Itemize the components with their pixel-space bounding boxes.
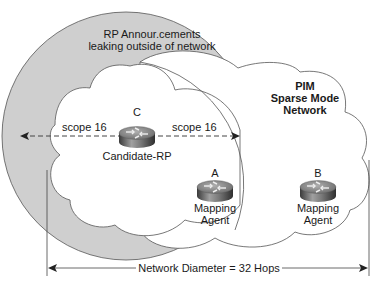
router-a-label: Mapping Agent <box>190 202 240 226</box>
router-a-icon <box>197 181 233 203</box>
router-b-label: Mapping Agent <box>293 202 343 226</box>
router-c-icon <box>119 127 155 149</box>
scope-right-label: scope 16 <box>172 121 217 133</box>
router-b-icon <box>300 181 336 203</box>
diameter-label: Network Diameter = 32 Hops <box>137 262 281 274</box>
router-c-letter: C <box>131 106 143 118</box>
leak-annotation: RP Annour.cements leaking outside of net… <box>77 28 227 52</box>
router-b-letter: B <box>312 167 324 179</box>
scope-left-label: scope 16 <box>62 121 107 133</box>
router-a-letter: A <box>209 167 221 179</box>
pim-network-label: PIM Sparse Mode Network <box>260 80 350 116</box>
router-c-label: Candidate-RP <box>102 150 172 162</box>
